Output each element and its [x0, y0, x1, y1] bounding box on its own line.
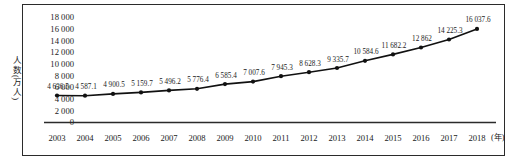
- data-point-marker: [251, 80, 255, 84]
- data-point-marker: [83, 94, 87, 98]
- data-point-label: 12 862: [412, 36, 432, 43]
- data-point-marker: [447, 37, 451, 41]
- data-point-marker: [195, 87, 199, 91]
- data-point-label: 6 585.4: [215, 73, 237, 80]
- data-point-marker: [419, 45, 423, 49]
- data-point-marker: [307, 70, 311, 74]
- data-point-label: 8 628.3: [299, 61, 321, 68]
- line-plot-canvas: [0, 0, 514, 163]
- data-point-label: 11 682.2: [382, 43, 407, 50]
- data-point-marker: [335, 66, 339, 70]
- data-point-marker: [391, 52, 395, 56]
- data-point-label: 9 335.7: [327, 57, 349, 64]
- data-point-label: 4 587.1: [75, 84, 97, 91]
- data-point-marker: [363, 59, 367, 63]
- data-point-label: 16 037.6: [465, 17, 490, 24]
- data-point-label: 4 636.5: [47, 84, 69, 91]
- data-point-label: 7 007.6: [243, 70, 265, 77]
- data-point-label: 7 945.3: [271, 65, 293, 72]
- data-point-marker: [167, 88, 171, 92]
- data-point-marker: [475, 27, 479, 31]
- data-point-label: 10 584.6: [353, 49, 378, 56]
- data-point-label: 5 776.4: [187, 77, 209, 84]
- data-point-label: 5 159.7: [131, 81, 153, 88]
- data-point-label: 5 496.2: [159, 79, 181, 86]
- data-point-label: 14 225.3: [437, 28, 462, 35]
- data-point-marker: [55, 93, 59, 97]
- data-point-marker: [139, 90, 143, 94]
- data-point-marker: [279, 74, 283, 78]
- data-point-marker: [223, 82, 227, 86]
- data-point-label: 4 900.5: [103, 82, 125, 89]
- data-point-marker: [111, 92, 115, 96]
